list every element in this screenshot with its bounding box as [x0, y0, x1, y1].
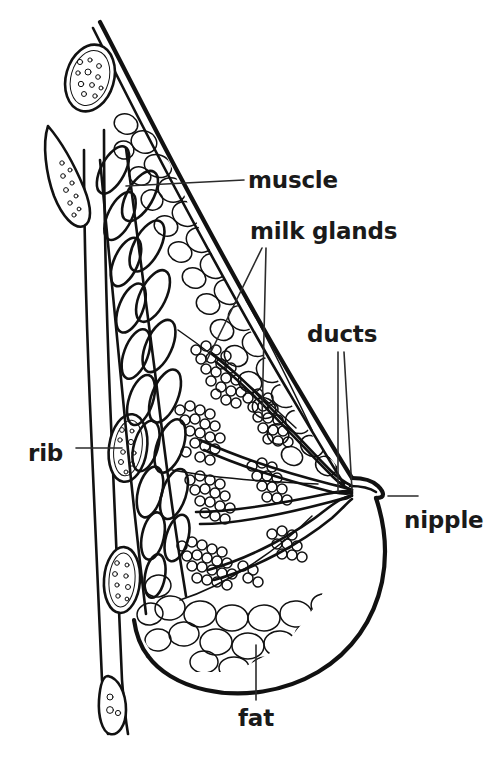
label-rib: rib [28, 440, 63, 466]
figure-background [0, 0, 502, 762]
label-muscle: muscle [248, 167, 338, 193]
label-ducts: ducts [307, 321, 377, 347]
anatomy-figure: muscle milk glands ducts rib nipple fat [0, 0, 502, 762]
breast-anatomy-diagram: muscle milk glands ducts rib nipple fat [0, 0, 502, 762]
label-milk-glands: milk glands [250, 218, 397, 244]
label-nipple: nipple [404, 507, 483, 533]
label-fat: fat [238, 705, 274, 731]
